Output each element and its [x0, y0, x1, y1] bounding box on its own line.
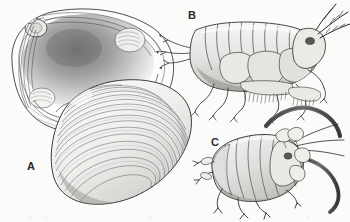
compound-eye [306, 38, 315, 45]
panel-label-a: A [27, 161, 35, 172]
interior-valve-deep-shadow [46, 29, 102, 67]
anterior-adductor-scar [29, 88, 55, 108]
isopod-eye [284, 153, 292, 159]
panel-label-c: C [211, 137, 219, 148]
plate-artwork [0, 0, 350, 222]
posterior-adductor-scar [115, 28, 145, 52]
illustration-plate: A B C [0, 0, 350, 222]
panel-label-b: B [188, 10, 196, 21]
